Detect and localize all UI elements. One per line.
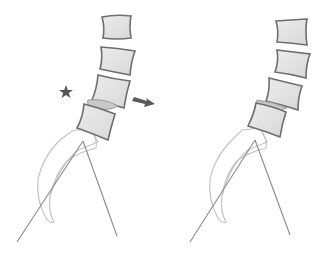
right-panel bbox=[190, 19, 310, 242]
angle-line-left bbox=[190, 140, 255, 242]
pelvis-outline bbox=[38, 128, 98, 223]
vertebra-r1 bbox=[276, 19, 307, 45]
left-panel bbox=[17, 15, 155, 242]
vertebra-l1 bbox=[102, 15, 131, 39]
star-icon bbox=[59, 85, 73, 98]
spine-diagram bbox=[0, 0, 330, 253]
angle-line-left bbox=[17, 141, 83, 242]
pelvis-outline bbox=[210, 128, 267, 223]
vertebra-r2 bbox=[275, 50, 310, 78]
arrow-right-icon bbox=[132, 97, 155, 107]
angle-line-right bbox=[83, 141, 117, 236]
angle-line-right bbox=[255, 140, 290, 235]
ilium-curve bbox=[50, 128, 96, 196]
ilium-curve bbox=[222, 128, 266, 196]
vertebra-l2 bbox=[100, 47, 135, 75]
